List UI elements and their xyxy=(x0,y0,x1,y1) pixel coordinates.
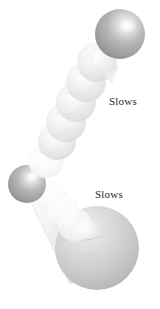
top-terminal-sphere xyxy=(95,9,145,59)
top-sphere-assembly xyxy=(95,9,145,59)
annotation-slows-lower: Slows xyxy=(95,188,123,200)
figure-canvas: Slows Slows xyxy=(0,0,160,309)
neck-sphere-3 xyxy=(58,208,92,242)
annotation-slows-upper: Slows xyxy=(109,95,137,107)
illustration-graphic xyxy=(0,0,160,309)
top-sphere-highlight xyxy=(119,19,137,33)
